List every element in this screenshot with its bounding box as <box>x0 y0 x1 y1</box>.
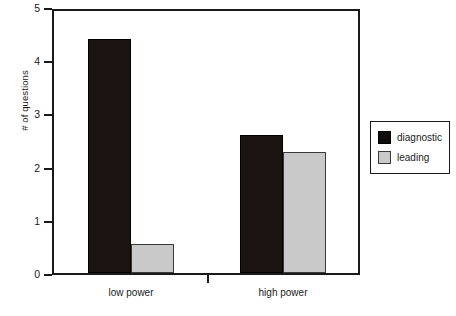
black-square-swatch-icon <box>378 131 391 144</box>
y-axis-tick: 1 <box>44 221 52 223</box>
legend-item-leading: leading <box>378 149 443 166</box>
x-axis-tick <box>207 275 209 283</box>
bar-low-power-leading <box>131 244 174 273</box>
y-axis-tick: 5 <box>44 8 52 10</box>
plot-area <box>52 9 360 275</box>
legend-label: diagnostic <box>397 132 442 143</box>
bar-low-power-diagnostic <box>88 39 131 273</box>
y-axis-tick: 4 <box>44 61 52 63</box>
bar-chart-figure: # of questions 543210 low powerhigh powe… <box>0 0 456 316</box>
y-axis-tick-label: 2 <box>34 161 40 175</box>
y-axis-tick: 0 <box>44 274 52 276</box>
bar-high-power-leading <box>283 152 326 273</box>
x-axis-group-label: low power <box>108 287 153 298</box>
y-axis-tick: 2 <box>44 168 52 170</box>
x-axis-group-label: high power <box>259 287 308 298</box>
y-axis-tick-label: 1 <box>34 214 40 228</box>
y-axis-label: # of questions <box>19 41 30 161</box>
y-axis-tick: 3 <box>44 114 52 116</box>
legend: diagnostic leading <box>370 121 450 174</box>
y-axis-tick-label: 4 <box>34 54 40 68</box>
y-axis-tick-label: 0 <box>34 267 40 281</box>
y-axis-tick-label: 5 <box>34 1 40 15</box>
gray-square-swatch-icon <box>378 151 391 164</box>
legend-label: leading <box>397 152 429 163</box>
bar-high-power-diagnostic <box>240 135 283 273</box>
y-axis-tick-label: 3 <box>34 107 40 121</box>
legend-item-diagnostic: diagnostic <box>378 129 443 146</box>
